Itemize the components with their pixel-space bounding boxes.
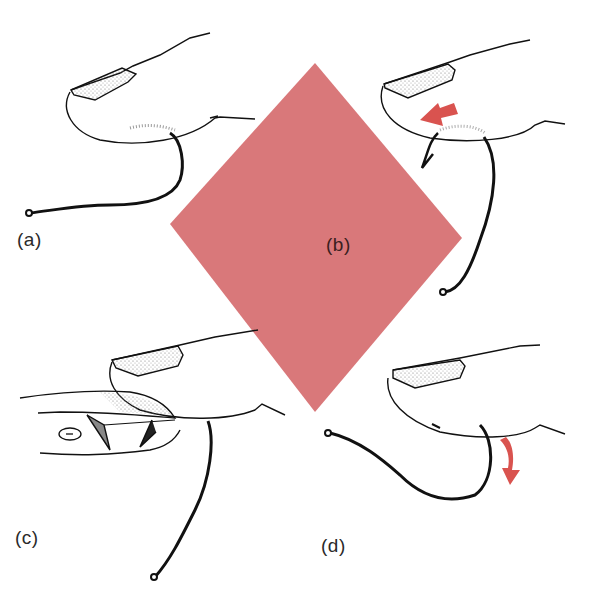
panel-b-finger	[381, 40, 565, 141]
center-diamond	[170, 63, 462, 412]
panel-d-red-arrow	[500, 437, 520, 485]
panel-d-hook-eye	[325, 430, 331, 436]
panel-d-mark	[432, 424, 440, 428]
panel-c-cutter-blade-2	[140, 420, 156, 447]
panel-d-finger	[388, 345, 565, 437]
panel-label-c: (c)	[15, 527, 39, 549]
panel-b-shading	[440, 126, 485, 133]
panel-c-cutter-blade-1	[87, 415, 110, 450]
panel-label-b: (b)	[326, 234, 351, 256]
panel-b-hook-eye	[440, 289, 446, 295]
panel-c-hook	[155, 421, 211, 577]
panel-a-finger	[67, 33, 255, 143]
panel-c-cutter-line	[104, 420, 175, 425]
panel-label-d: (d)	[321, 535, 346, 557]
panel-a-shading	[130, 126, 175, 130]
panel-a-hook	[30, 133, 182, 213]
panel-label-a: (a)	[17, 229, 42, 251]
illustration	[0, 0, 591, 599]
panel-a-hook-eye	[26, 210, 32, 216]
figure-canvas: (a) (b) (c) (d)	[0, 0, 591, 599]
panel-b-hook	[445, 137, 494, 292]
panel-c-hook-eye	[151, 574, 157, 580]
panel-b-red-arrow	[420, 103, 458, 126]
